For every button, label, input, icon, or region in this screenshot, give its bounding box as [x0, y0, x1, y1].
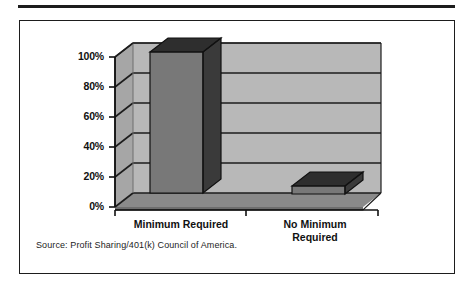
y-tick-label-40: 40% — [62, 140, 104, 152]
y-tick-label-60: 60% — [62, 110, 104, 122]
x-category-label-line-2: Required — [292, 231, 338, 243]
x-category-label-line-1: Minimum Required — [134, 218, 229, 230]
top-rule-divider — [18, 5, 455, 8]
y-tick-label-80: 80% — [62, 80, 104, 92]
x-category-label-minimum-required: Minimum Required — [116, 218, 246, 231]
y-tick-label-100: 100% — [62, 50, 104, 62]
y-tick-label-0: 0% — [62, 200, 104, 212]
source-note: Source: Profit Sharing/401(k) Council of… — [36, 240, 237, 250]
y-tick-label-20: 20% — [62, 170, 104, 182]
figure-page: 100% 80% 60% 40% 20% 0% Minimum Required… — [0, 0, 474, 288]
x-category-label-line-1: No Minimum — [284, 218, 347, 230]
x-category-label-no-minimum-required: No Minimum Required — [252, 218, 378, 244]
